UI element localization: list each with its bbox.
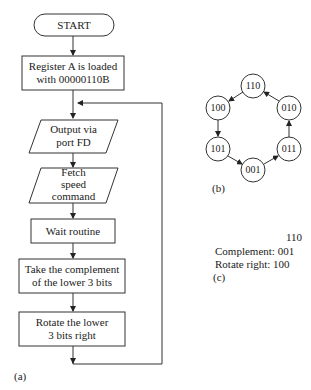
start-terminator: START	[34, 19, 114, 32]
fetch-line-2: speed	[29, 178, 118, 190]
rotate-label: Rotate right:	[215, 258, 270, 270]
rotate-value: 100	[273, 258, 290, 270]
state-node-011: 011	[274, 134, 304, 164]
complement-line-2: of the lower 3 bits	[19, 276, 125, 289]
state-node-100: 100	[203, 93, 233, 123]
state-node-001: 001	[238, 155, 268, 185]
complement-step: Take the complement of the lower 3 bits	[19, 263, 125, 289]
caption-a: (a)	[14, 370, 26, 382]
load-line-2: with 00000110B	[22, 73, 124, 86]
complement-value: 001	[278, 245, 295, 257]
output-line-2: port FD	[29, 136, 118, 149]
rotate-line-1: Rotate the lower	[19, 316, 125, 329]
fetch-step: Fetch speed command	[29, 166, 118, 202]
load-line-1: Register A is loaded	[22, 60, 124, 73]
output-step: Output via port FD	[29, 123, 118, 149]
caption-b: (b)	[212, 182, 225, 194]
output-line-1: Output via	[29, 123, 118, 136]
state-node-010: 010	[274, 93, 304, 123]
rotate-row: Rotate right: 100	[215, 258, 290, 270]
rotate-line-2: 3 bits right	[19, 329, 125, 342]
wait-step: Wait routine	[31, 225, 115, 238]
fetch-line-1: Fetch	[29, 166, 118, 178]
caption-c: (c)	[213, 271, 225, 283]
load-register-step: Register A is loaded with 00000110B	[22, 60, 124, 86]
fetch-line-3: command	[29, 190, 118, 202]
rotate-step: Rotate the lower 3 bits right	[19, 316, 125, 342]
complement-row: Complement: 001	[215, 245, 294, 257]
example-value: 110	[286, 231, 302, 243]
state-node-101: 101	[203, 134, 233, 164]
complement-line-1: Take the complement	[19, 263, 125, 276]
complement-label: Complement:	[215, 245, 275, 257]
state-node-110: 110	[238, 71, 268, 101]
